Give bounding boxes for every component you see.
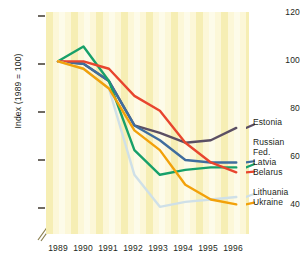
- series-lines: [46, 12, 249, 234]
- y-tick-label-100: 100: [274, 55, 300, 65]
- legend-label-belarus: Belarus: [253, 167, 283, 177]
- legend-label-estonia: Estonia: [253, 117, 282, 127]
- line-chart-figure: Index (1989 = 100) 120 100 80 60 40 1989…: [0, 0, 300, 264]
- legend-label-ukraine: Ukraine: [253, 197, 283, 207]
- y-tick-mark-60: [38, 159, 45, 161]
- y-tick-label-120: 120: [274, 7, 300, 17]
- plot-area: [46, 12, 249, 234]
- legend-connector-lines: [246, 0, 256, 264]
- series-line-russian-fed: [58, 61, 236, 162]
- x-tick-label-1996: 1996: [216, 243, 250, 253]
- y-axis-title: Index (1989 = 100): [13, 21, 23, 161]
- y-tick-mark-80: [38, 111, 45, 113]
- y-tick-mark-100: [38, 63, 45, 65]
- legend-label-latvia: Latvia: [253, 157, 276, 167]
- series-line-belarus: [58, 61, 236, 172]
- legend-label-lithuania: Lithuania: [253, 187, 288, 197]
- legend-label-russian: Russian: [253, 137, 284, 147]
- y-tick-label-80: 80: [274, 103, 300, 113]
- y-tick-mark-120: [38, 15, 45, 17]
- y-tick-mark-40: [38, 207, 45, 209]
- legend-label-fed: Fed.: [253, 147, 270, 157]
- y-tick-label-60: 60: [274, 151, 300, 161]
